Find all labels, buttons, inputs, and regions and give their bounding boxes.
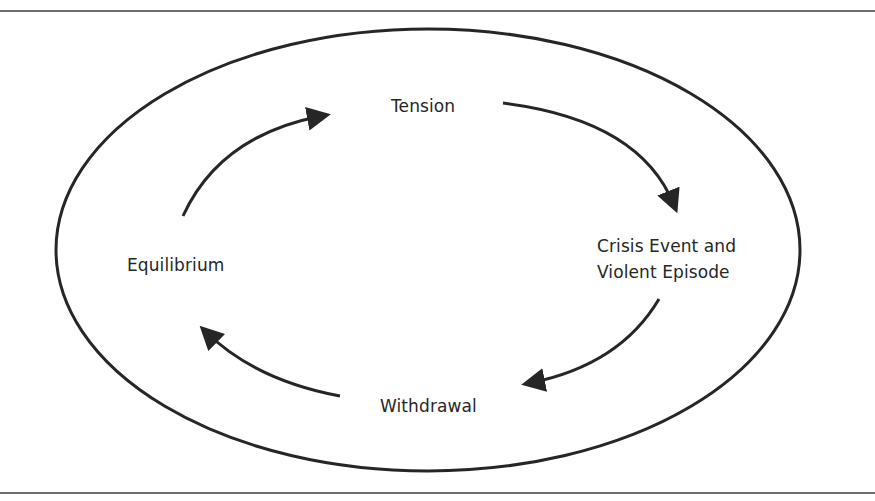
arrow-withdrawal-to-equilibrium (206, 332, 340, 396)
arrow-crisis-to-withdrawal (530, 299, 659, 383)
stage-label-crisis-event: Crisis Event and Violent Episode (597, 233, 736, 285)
arrow-tension-to-crisis (503, 103, 674, 205)
arrow-equilibrium-to-tension (183, 116, 322, 216)
stage-label-withdrawal: Withdrawal (380, 393, 477, 419)
stage-label-crisis-line-2: Violent Episode (597, 259, 736, 285)
cycle-diagram (0, 0, 875, 501)
stage-label-tension: Tension (391, 93, 455, 119)
stage-label-crisis-line-1: Crisis Event and (597, 233, 736, 259)
stage-label-equilibrium: Equilibrium (127, 252, 224, 278)
